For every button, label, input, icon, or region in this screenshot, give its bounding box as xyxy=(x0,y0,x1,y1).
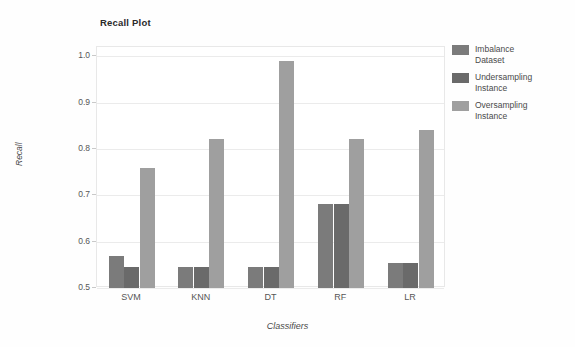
x-tick-label: SVM xyxy=(121,292,141,302)
chart-legend: Imbalance DatasetUndersampling InstanceO… xyxy=(452,44,532,128)
bar xyxy=(318,204,333,288)
x-tick-label: KNN xyxy=(191,292,210,302)
y-tick-mark xyxy=(92,287,96,288)
x-tick-label: LR xyxy=(404,292,416,302)
x-tick-label: DT xyxy=(265,292,277,302)
legend-swatch xyxy=(452,45,469,55)
legend-swatch xyxy=(452,73,469,83)
y-tick-label: 1.0 xyxy=(60,50,90,60)
x-axis-label: Classifiers xyxy=(0,321,575,331)
bar xyxy=(178,267,193,288)
y-tick-mark xyxy=(92,241,96,242)
bar xyxy=(124,267,139,288)
legend-swatch xyxy=(452,101,469,111)
chart-title: Recall Plot xyxy=(100,17,151,28)
y-tick-label: 0.6 xyxy=(60,236,90,246)
recall-chart: Recall Plot Recall SVMKNNDTRFLR Classifi… xyxy=(0,0,575,347)
gridline xyxy=(97,103,444,104)
bar xyxy=(140,168,155,289)
legend-label: Imbalance Dataset xyxy=(475,44,514,65)
legend-label: Oversampling Instance xyxy=(475,100,527,121)
gridline xyxy=(97,56,444,57)
y-tick-label: 0.9 xyxy=(60,97,90,107)
bar xyxy=(194,267,209,288)
y-tick-mark xyxy=(92,102,96,103)
legend-item: Imbalance Dataset xyxy=(452,44,532,65)
bar xyxy=(264,267,279,288)
bar xyxy=(388,263,403,288)
y-axis-label: Recall xyxy=(14,142,24,166)
bar xyxy=(109,256,124,288)
bar xyxy=(248,267,263,288)
y-tick-mark xyxy=(92,194,96,195)
legend-item: Oversampling Instance xyxy=(452,100,532,121)
bar xyxy=(279,61,294,288)
y-tick-mark xyxy=(92,148,96,149)
bar xyxy=(403,263,418,288)
bar xyxy=(209,139,224,288)
bar xyxy=(334,204,349,288)
plot-area xyxy=(96,46,445,287)
y-tick-label: 0.8 xyxy=(60,143,90,153)
y-tick-mark xyxy=(92,55,96,56)
bar xyxy=(349,139,364,288)
y-tick-label: 0.7 xyxy=(60,189,90,199)
y-tick-label: 0.5 xyxy=(60,282,90,292)
legend-item: Undersampling Instance xyxy=(452,72,532,93)
gridline xyxy=(97,288,444,289)
x-tick-label: RF xyxy=(334,292,346,302)
gridline xyxy=(97,149,444,150)
bar xyxy=(419,130,434,288)
legend-label: Undersampling Instance xyxy=(475,72,532,93)
